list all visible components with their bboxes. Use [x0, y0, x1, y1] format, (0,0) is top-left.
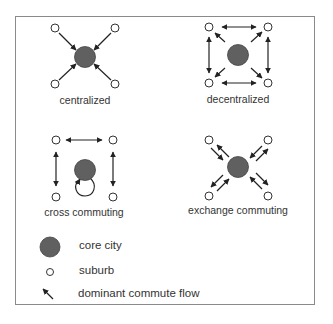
core-city-icon	[228, 45, 249, 66]
core-city-icon	[228, 157, 249, 178]
label-exchange-commuting: exchange commuting	[188, 204, 288, 216]
legend-flow: dominant commute flow	[78, 287, 199, 299]
commuting-diagram	[0, 0, 333, 324]
core-city-icon	[75, 160, 96, 181]
label-decentralized: decentralized	[207, 93, 269, 105]
label-cross-commuting: cross commuting	[44, 206, 123, 218]
label-centralized: centralized	[60, 94, 111, 106]
legend-core-city: core city	[79, 239, 122, 251]
legend-suburb-icon	[47, 269, 54, 276]
legend-suburb: suburb	[79, 264, 114, 276]
core-city-icon	[75, 47, 96, 68]
legend-core-city-icon	[40, 237, 60, 257]
flow-arrow-icon	[43, 289, 53, 299]
